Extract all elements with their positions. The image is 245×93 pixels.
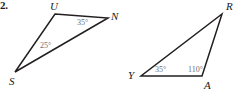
vertex-label-y: Y bbox=[128, 70, 134, 81]
vertex-label-a: A bbox=[204, 80, 211, 91]
triangle-sun-outline bbox=[15, 14, 108, 72]
vertex-label-s: S bbox=[9, 76, 15, 87]
angle-label-n-35: 35° bbox=[77, 19, 88, 27]
angle-label-s-25: 25° bbox=[40, 42, 51, 50]
geometry-figure: 2. U N S 35° 25° R A Y 35° 110° bbox=[0, 0, 245, 93]
triangle-sun-shape bbox=[15, 14, 108, 72]
vertex-label-u: U bbox=[50, 1, 58, 12]
triangle-yar-shape bbox=[141, 14, 222, 76]
problem-number: 2. bbox=[0, 0, 8, 11]
triangle-yar-outline bbox=[141, 14, 222, 76]
vertex-label-r: R bbox=[226, 1, 233, 12]
angle-label-a-110: 110° bbox=[188, 66, 203, 74]
angle-label-y-35: 35° bbox=[155, 66, 166, 74]
vertex-label-n: N bbox=[111, 11, 118, 22]
